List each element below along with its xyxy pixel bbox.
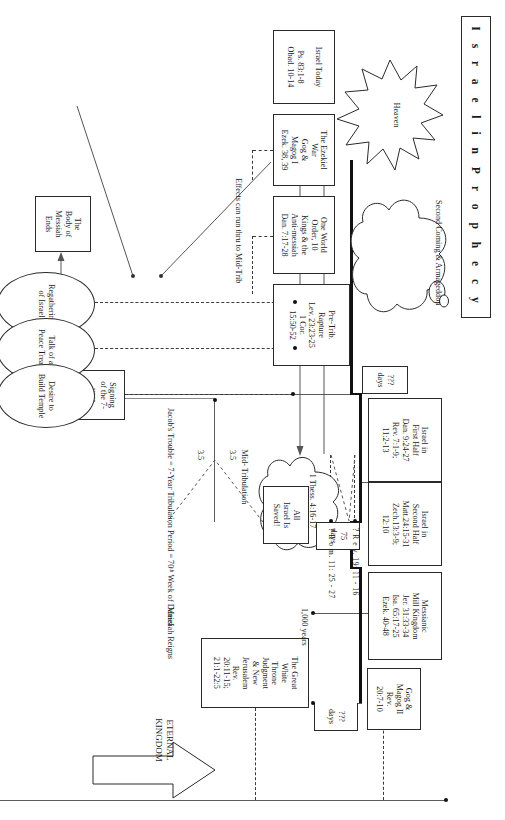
mid-tribulation-label: Mid- Tribulation <box>239 432 249 522</box>
dot-peace-treaty-top <box>293 346 297 350</box>
box-israel-first-half: Israel in First Half Dan. 9:24-27 Rev. 7… <box>368 398 442 482</box>
dashline-regathering <box>95 302 295 303</box>
label-3-5-second: 3.5 <box>195 440 205 470</box>
mill-span-dot-b <box>311 701 315 705</box>
box-messianic-kingdom: Messianic Mill Kingdom Jer. 31:33-34 Isa… <box>368 572 442 660</box>
duration-unknown-days-pre-trib: ??? days <box>362 366 408 394</box>
dot-regathering-top <box>293 300 297 304</box>
timeline-bar-tribulation <box>359 393 362 522</box>
box-all-israel-saved: All Israel Is Saved! <box>263 486 309 544</box>
refs-converge-lines <box>325 455 359 525</box>
box-body-of-messiah: The Body of Messiah Ends <box>35 196 91 252</box>
dot-build-temple-top <box>291 392 295 396</box>
dashline-peace-treaty <box>95 348 295 349</box>
second-coming-cloud <box>345 188 465 328</box>
box-israel-today: Israel Today Ps. 83:1-8 Obad. 10-14 <box>273 30 335 104</box>
heaven-label: Heaven <box>391 25 401 205</box>
box-ezekiel-war: The Ezekiel War Gog & Magog I Ezek. 38, … <box>273 114 335 186</box>
box-gog-magog-two: Gog & Magog II Rev. 20:7-10 <box>367 668 421 730</box>
ref-rom-11: ? R o m. 11: 25 - 27 <box>326 528 335 648</box>
dash-gwt-to-eternal <box>255 708 256 800</box>
eternal-kingdom-label: ETERNAL KINGDOM <box>153 690 176 790</box>
rev-ref-dot <box>353 519 357 523</box>
rom-ref-dot <box>329 519 333 523</box>
ref-rev-19: ? R e v. 19: 11 - 16 <box>350 528 359 648</box>
mill-span-dot-a <box>311 611 315 615</box>
label-3-5-first: 3.5 <box>227 440 237 470</box>
eternal-axis <box>0 800 447 801</box>
jacobs-trouble-label: Jacob's Trouble = 7-Year Tribulation Per… <box>165 408 175 548</box>
mid-trib-axis-dot <box>213 398 217 402</box>
duration-1000-years: 1,000 years <box>299 608 309 718</box>
duration-unknown-days-post-mill: ??? days <box>314 703 358 731</box>
box-pre-trib-rapture: Pre-Trib. Rapture Lev. 23:23-25 1 Cor. 1… <box>273 284 350 366</box>
box-great-white-throne: The Great White Throne Judgment & New Je… <box>201 638 309 708</box>
page-title: I s r a e l i n P r o p h e c y <box>461 16 491 318</box>
box-israel-second-half: Israel in Second Half Matt.24:15-31 Zech… <box>368 482 442 566</box>
heaven-starburst <box>335 60 445 170</box>
page-title-text: I s r a e l i n P r o p h e c y <box>470 26 482 307</box>
eternal-axis-top-dot <box>444 798 448 802</box>
ellipse-desire-to-build-temple: Desire to Build Temple <box>0 364 95 428</box>
box-one-world-order: One World Order, 10 Kings & the Anti-mes… <box>273 196 335 274</box>
effects-run-note: Effects can run thru to Mid-Trib <box>233 178 243 388</box>
second-coming-label: Second Coming & Armageddon <box>433 200 443 304</box>
